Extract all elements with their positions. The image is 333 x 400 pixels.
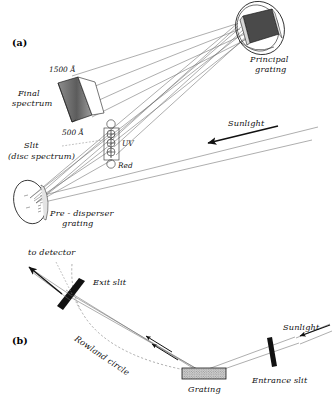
pre-disperser-label-2: grating	[62, 218, 94, 228]
to-detector-label: to detector	[28, 247, 76, 257]
panel-b-label: (b)	[12, 335, 28, 346]
uv-order-label: UV	[122, 139, 134, 148]
principal-grating	[228, 0, 293, 62]
final-spectrum-label: Final	[17, 88, 40, 98]
principal-grating-label-2: grating	[255, 64, 287, 74]
figure-root: Principal grating 1500 Å 500 Å Final spe…	[0, 0, 333, 400]
final-spectrum-label-2: spectrum	[12, 98, 52, 108]
rowland-circle-label: Rowland circle	[72, 333, 131, 378]
ray-bundle-sunlight-to-predisperser	[40, 127, 318, 203]
panel-b: Exit slit to detector Grating Entrance s…	[12, 247, 332, 394]
sunlight-label-a: Sunlight	[228, 118, 265, 128]
wavelength-top-label: 1500 Å	[49, 65, 76, 74]
slit-leader-line	[62, 140, 103, 146]
wavelength-bottom-label: 500 Å	[62, 128, 84, 137]
ray-grating-to-exit	[66, 290, 206, 374]
exit-slit-label: Exit slit	[92, 277, 127, 287]
sunlight-label-b: Sunlight	[283, 322, 320, 332]
rowland-circle-arc	[72, 264, 196, 372]
grating-label: Grating	[188, 384, 221, 394]
principal-grating-label: Principal	[249, 54, 289, 64]
slit-sublabel: (disc spectrum)	[8, 151, 75, 161]
entrance-slit-label: Entrance slit	[251, 375, 308, 385]
red-order-label: Red	[117, 161, 133, 170]
grating	[182, 368, 226, 379]
entrance-slit	[267, 337, 277, 367]
diagram-canvas: Principal grating 1500 Å 500 Å Final spe…	[0, 0, 333, 400]
pre-disperser-grating	[9, 177, 51, 227]
panel-a: Principal grating 1500 Å 500 Å Final spe…	[8, 0, 318, 228]
pre-disperser-label: Pre - disperser	[49, 208, 114, 218]
slit-label: Slit	[24, 140, 39, 150]
ray-to-detector	[29, 267, 72, 300]
panel-a-label: (a)	[12, 37, 27, 48]
ray-bundle-predisperser-to-principal	[30, 23, 249, 203]
sunlight-arrow-a	[208, 126, 278, 143]
final-spectrum	[58, 77, 104, 122]
